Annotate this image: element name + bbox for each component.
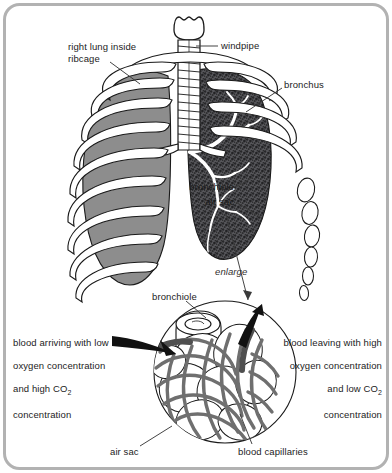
label-windpipe: windpipe (221, 40, 259, 52)
callout-line-3-text: and high CO (13, 383, 67, 394)
label-blood-capillaries: blood capillaries (238, 446, 308, 458)
label-enlarge: enlarge (215, 266, 247, 278)
label-air-sac-upper: air sac (150, 196, 234, 208)
callout-line-2: oxygen concentration (258, 360, 382, 372)
label-bronchiole-upper: bronchiole (150, 181, 234, 193)
callout-line-1: blood arriving with low (13, 337, 135, 349)
label-air-sac-lower: air sac (110, 446, 139, 458)
callout-line-2: oxygen concentration (13, 360, 135, 372)
callout-line-1: blood leaving with high (258, 337, 382, 349)
callout-line-3-text: and low CO (327, 383, 378, 394)
leader-air-sac-lower (140, 426, 172, 446)
label-bronchus: bronchus (284, 79, 324, 91)
callout-blood-arriving: blood arriving with low oxygen concentra… (13, 325, 135, 432)
co2-subscript: 2 (378, 388, 382, 395)
label-right-lung: right lung inside ribcage (68, 41, 178, 64)
label-bronchiole-lower: bronchiole (152, 291, 197, 303)
co2-subscript: 2 (67, 388, 71, 395)
diagram-figure: right lung inside ribcage windpipe bronc… (0, 0, 392, 473)
callout-blood-leaving: blood leaving with high oxygen concentra… (258, 325, 382, 432)
callout-line-4: concentration (13, 409, 135, 421)
callout-line-4: concentration (258, 409, 382, 421)
callout-line-3: and high CO2 (13, 383, 135, 398)
callout-line-3: and low CO2 (258, 383, 382, 398)
